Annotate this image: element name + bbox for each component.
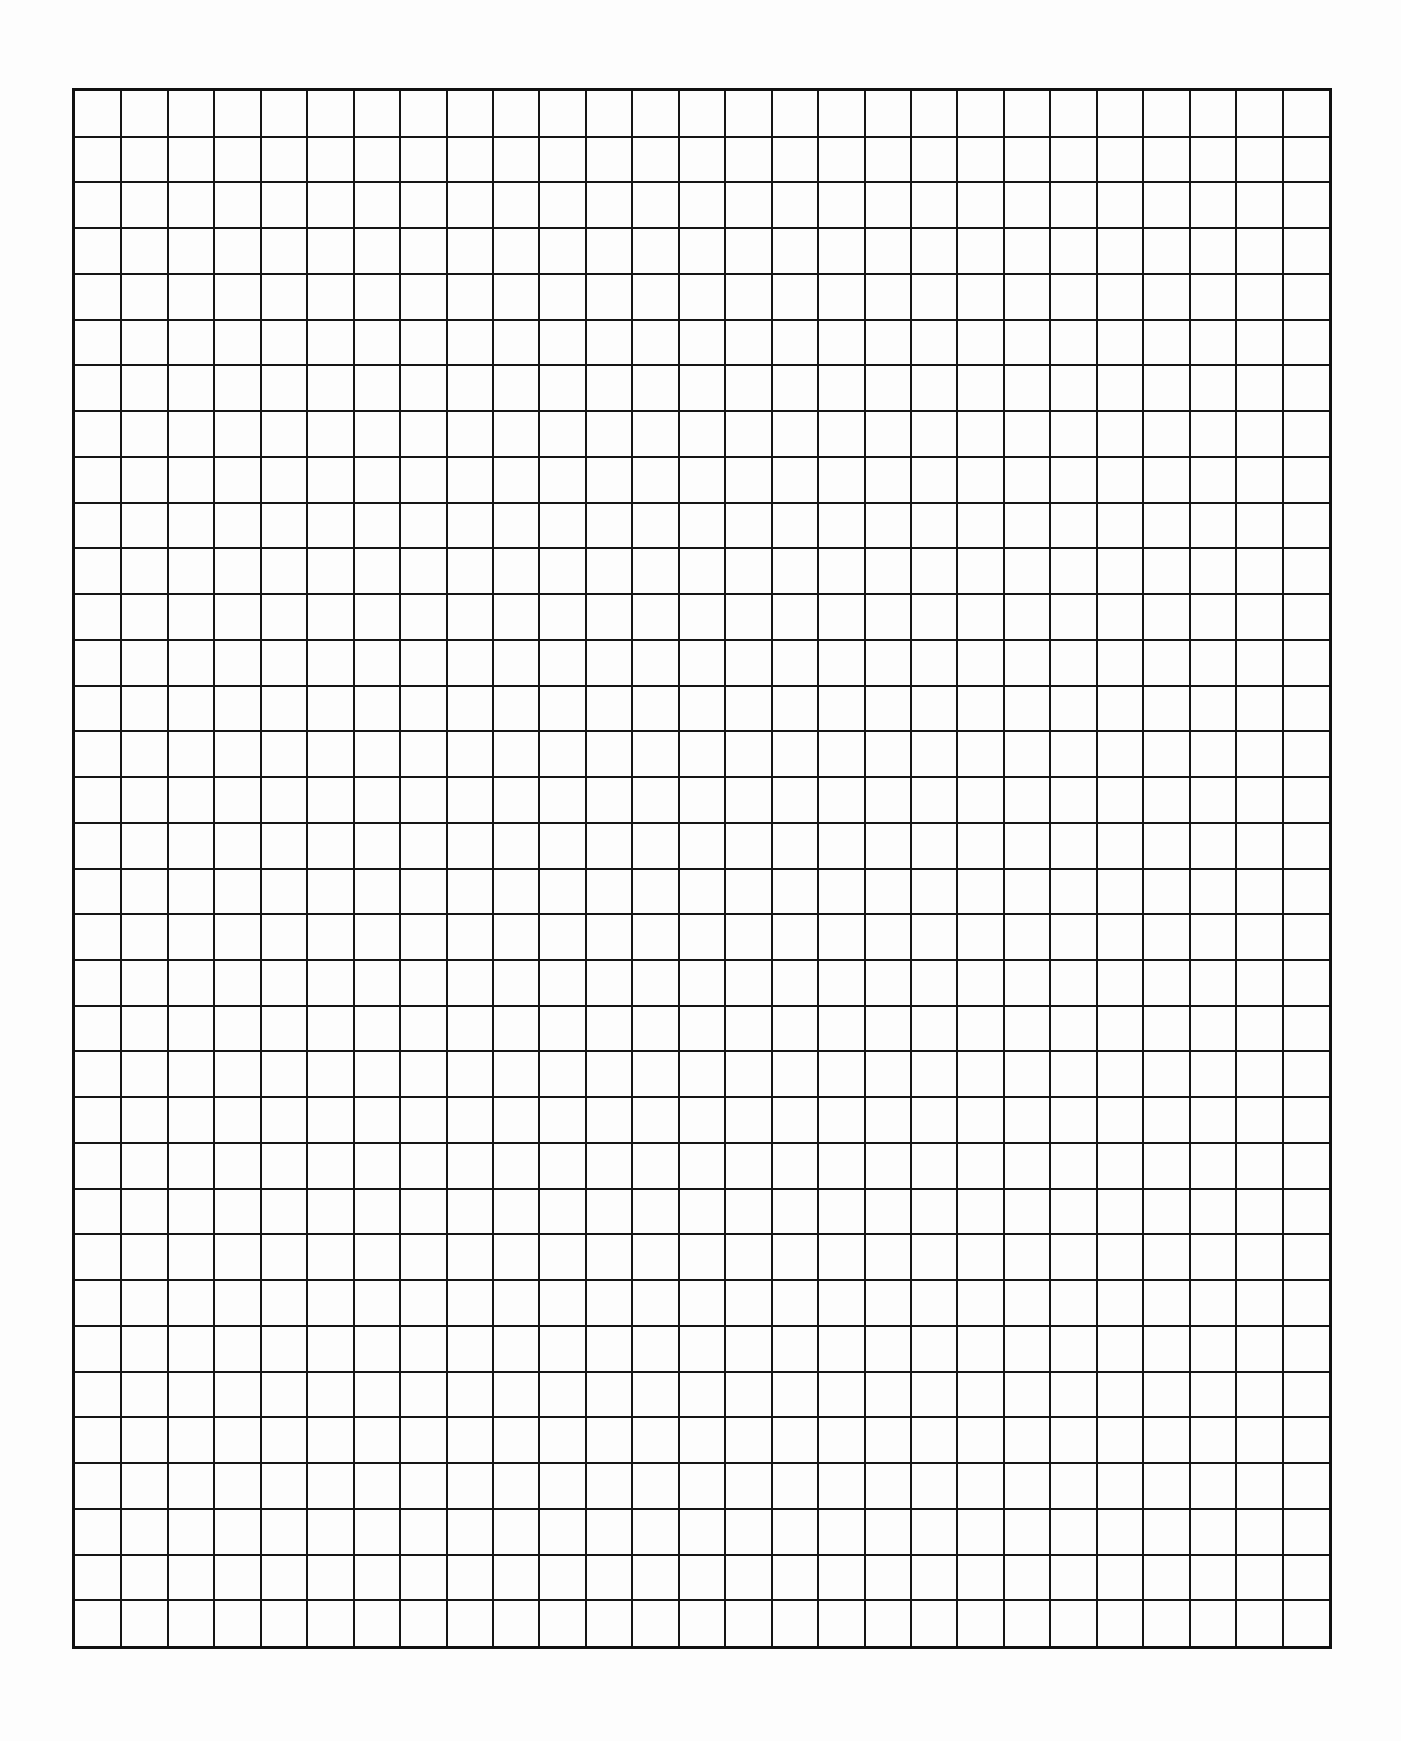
grid-horizontal-line [75, 1416, 1329, 1418]
grid-horizontal-line [75, 639, 1329, 641]
grid-horizontal-line [75, 868, 1329, 870]
grid-horizontal-line [75, 547, 1329, 549]
grid-horizontal-line [75, 1462, 1329, 1464]
grid-horizontal-line [75, 410, 1329, 412]
grid-horizontal-line [75, 959, 1329, 961]
grid-horizontal-line [75, 181, 1329, 183]
grid-horizontal-line [75, 1233, 1329, 1235]
grid-horizontal-line [75, 1599, 1329, 1601]
grid-horizontal-line [75, 1142, 1329, 1144]
grid-horizontal-line [75, 227, 1329, 229]
grid-horizontal-line [75, 913, 1329, 915]
graph-paper-page [0, 0, 1401, 1741]
grid-horizontal-line [75, 1005, 1329, 1007]
grid-horizontal-line [75, 502, 1329, 504]
grid-horizontal-line [75, 776, 1329, 778]
grid-horizontal-line [75, 1508, 1329, 1510]
grid-horizontal-line [75, 1050, 1329, 1052]
grid-horizontal-line [75, 1188, 1329, 1190]
grid-horizontal-line [75, 1371, 1329, 1373]
grid-horizontal-line [75, 593, 1329, 595]
grid-horizontal-line [75, 1554, 1329, 1556]
grid-horizontal-line [75, 1096, 1329, 1098]
grid-horizontal-line [75, 456, 1329, 458]
grid-horizontal-line [75, 273, 1329, 275]
grid [72, 88, 1332, 1649]
grid-horizontal-line [75, 319, 1329, 321]
grid-horizontal-line [75, 136, 1329, 138]
grid-horizontal-line [75, 730, 1329, 732]
grid-horizontal-line [75, 822, 1329, 824]
grid-horizontal-line [75, 364, 1329, 366]
grid-horizontal-line [75, 1325, 1329, 1327]
grid-horizontal-line [75, 1279, 1329, 1281]
grid-horizontal-line [75, 685, 1329, 687]
